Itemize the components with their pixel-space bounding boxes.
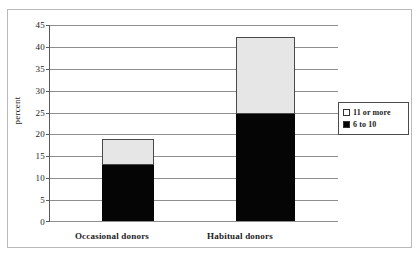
plot-area: [49, 25, 337, 222]
legend-swatch-dark-icon: [343, 121, 350, 128]
bar-segment-6-to-10[interactable]: [236, 114, 295, 221]
bar-occasional-donors[interactable]: [102, 139, 154, 221]
bar-segment-6-to-10[interactable]: [102, 165, 154, 221]
gridline-0: [50, 221, 338, 222]
legend-label-11-or-more: 11 or more: [353, 108, 391, 117]
x-axis-label-occasional-donors: Occasional donors: [46, 231, 178, 241]
y-tick-label-45: 45: [15, 21, 45, 30]
bar-segment-11-or-more[interactable]: [236, 37, 295, 114]
gridline-45: [50, 25, 338, 26]
chart-legend: 11 or more 6 to 10: [338, 102, 409, 135]
y-tick-label-15: 15: [15, 152, 45, 161]
y-tick-label-0: 0: [15, 218, 45, 227]
y-axis-title: percent: [13, 81, 22, 141]
bar-habitual-donors[interactable]: [236, 37, 295, 221]
chart-figure-frame: 45 40 35 30 25 20 15 10 5 0 percent: [7, 9, 412, 248]
stacked-bar-chart: 45 40 35 30 25 20 15 10 5 0 percent: [8, 10, 411, 247]
y-tick-label-40: 40: [15, 43, 45, 52]
legend-item-6-to-10[interactable]: 6 to 10: [343, 119, 405, 130]
x-axis-label-habitual-donors: Habitual donors: [174, 231, 306, 241]
y-tick-label-10: 10: [15, 174, 45, 183]
y-tick-label-5: 5: [15, 196, 45, 205]
y-tick-label-35: 35: [15, 65, 45, 74]
legend-label-6-to-10: 6 to 10: [353, 120, 376, 129]
legend-swatch-light-icon: [343, 109, 350, 116]
bar-segment-11-or-more[interactable]: [102, 139, 154, 165]
legend-item-11-or-more[interactable]: 11 or more: [343, 107, 405, 118]
